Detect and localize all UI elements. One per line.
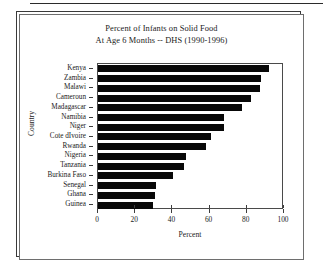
y-axis-tick <box>89 204 93 205</box>
x-axis-tick-inner <box>283 205 284 208</box>
bar-row <box>98 172 282 179</box>
y-axis-tick-label: Kenya <box>67 64 86 72</box>
x-axis-tick-inner <box>209 205 210 208</box>
y-axis-title: Country <box>27 99 36 149</box>
bars-layer <box>98 64 282 208</box>
y-axis-tick <box>89 107 93 108</box>
bar-row <box>98 133 282 140</box>
y-axis-tick <box>89 194 93 195</box>
y-axis-tick-label: Burkina Faso <box>47 171 86 179</box>
y-axis-tick-label: Namibia <box>61 113 86 121</box>
x-axis-tick <box>134 209 135 213</box>
x-axis-tick-label: 60 <box>205 215 212 224</box>
bar-row <box>98 85 282 92</box>
bar-row <box>98 95 282 102</box>
x-axis-tick-label: 0 <box>95 215 99 224</box>
chart-figure: Percent of Infants on Solid Food At Age … <box>20 15 303 259</box>
y-axis-tick-label: Ghana <box>67 190 86 198</box>
x-axis-tick-label: 40 <box>168 215 175 224</box>
y-axis-tick-label: Zambia <box>64 74 86 82</box>
bar <box>98 95 251 102</box>
y-axis-tick <box>89 87 93 88</box>
bar <box>98 65 269 72</box>
x-axis-title: Percent <box>97 230 283 239</box>
x-axis-tick-label: 80 <box>242 215 249 224</box>
x-axis-tick <box>209 209 210 213</box>
page-top-rule <box>30 3 323 4</box>
y-axis-tick <box>89 165 93 166</box>
bar-row <box>98 163 282 170</box>
bar <box>98 133 211 140</box>
x-axis-tick <box>97 209 98 213</box>
bar <box>98 182 156 189</box>
y-axis-tick-label: Malawi <box>64 83 86 91</box>
bar <box>98 124 224 131</box>
y-axis-tick-label: Madagascar <box>51 103 86 111</box>
bar-row <box>98 114 282 121</box>
bar <box>98 85 260 92</box>
y-axis-tick <box>89 146 93 147</box>
bar-row <box>98 75 282 82</box>
x-axis-tick-inner <box>171 205 172 208</box>
x-axis-tick-label: 20 <box>130 215 137 224</box>
x-axis-tick-label: 100 <box>277 215 288 224</box>
y-axis-tick <box>89 155 93 156</box>
y-axis-tick <box>89 68 93 69</box>
x-axis-tick <box>171 209 172 213</box>
bar <box>98 75 261 82</box>
y-axis-tick-label: Senegal <box>63 181 86 189</box>
y-axis-tick <box>89 97 93 98</box>
bar-row <box>98 182 282 189</box>
chart-title-line-1: Percent of Infants on Solid Food <box>20 23 303 35</box>
y-axis-tick <box>89 175 93 176</box>
y-axis-tick-label: Rwanda <box>62 142 86 150</box>
bar <box>98 172 173 179</box>
x-axis-tick-inner <box>246 205 247 208</box>
y-axis-tick-label: Guinea <box>65 200 86 208</box>
bar <box>98 163 184 170</box>
y-axis-tick-label: Cote dIvoire <box>50 132 86 140</box>
y-axis-tick <box>89 78 93 79</box>
bar-row <box>98 153 282 160</box>
bar <box>98 192 155 199</box>
chart-title: Percent of Infants on Solid Food At Age … <box>20 23 303 46</box>
bar <box>98 104 242 111</box>
bar-row <box>98 192 282 199</box>
y-axis-tick <box>89 117 93 118</box>
y-axis-tick-label: Tanzania <box>60 161 86 169</box>
bar <box>98 114 224 121</box>
y-axis-tick <box>89 185 93 186</box>
bar-row <box>98 124 282 131</box>
bar <box>98 143 206 150</box>
y-axis-tick-label: Cameroun <box>56 93 86 101</box>
y-axis-tick-label: Niger <box>70 122 86 130</box>
bar <box>98 202 153 209</box>
y-axis-tick <box>89 136 93 137</box>
bar-row <box>98 202 282 209</box>
bar <box>98 153 186 160</box>
y-axis-tick-label: Nigeria <box>64 151 86 159</box>
x-axis-tick-inner <box>97 205 98 208</box>
x-axis-tick-inner <box>134 205 135 208</box>
x-axis-tick <box>246 209 247 213</box>
chart-title-line-2: At Age 6 Months -- DHS (1990-1996) <box>20 35 303 47</box>
bar-row <box>98 65 282 72</box>
bar-row <box>98 143 282 150</box>
plot-area <box>97 63 283 209</box>
bar-row <box>98 104 282 111</box>
x-axis-tick <box>283 209 284 213</box>
y-axis-tick <box>89 126 93 127</box>
